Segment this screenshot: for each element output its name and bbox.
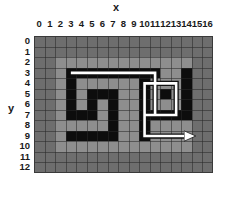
cell-wall-4-9 xyxy=(76,131,87,142)
cell-open-3-10 xyxy=(66,141,77,152)
cell-background-1-6 xyxy=(45,99,56,110)
cell-background-16-2 xyxy=(202,57,213,68)
cell-open-8-8 xyxy=(118,120,129,131)
cell-background-6-11 xyxy=(97,152,108,163)
cell-background-10-1 xyxy=(139,47,150,58)
cell-background-12-11 xyxy=(160,152,171,163)
cell-background-1-8 xyxy=(45,120,56,131)
cell-open-2-2 xyxy=(55,57,66,68)
cell-wall-5-6 xyxy=(87,99,98,110)
cell-open-13-2 xyxy=(171,57,182,68)
cell-open-2-10 xyxy=(55,141,66,152)
cell-background-13-1 xyxy=(171,47,182,58)
cell-background-9-1 xyxy=(129,47,140,58)
cell-open-4-2 xyxy=(76,57,87,68)
cell-open-8-9 xyxy=(118,131,129,142)
cell-background-0-0 xyxy=(34,36,45,47)
cell-background-15-2 xyxy=(192,57,203,68)
cell-wall-10-5 xyxy=(139,89,150,100)
cell-background-4-11 xyxy=(76,152,87,163)
cell-open-9-5 xyxy=(129,89,140,100)
cell-wall-7-7 xyxy=(108,110,119,121)
cell-open-3-2 xyxy=(66,57,77,68)
x-tick-14: 14 xyxy=(181,18,192,30)
cell-open-8-4 xyxy=(118,78,129,89)
cell-open-11-2 xyxy=(150,57,161,68)
y-tick-4: 4 xyxy=(16,78,32,89)
cell-wall-10-9 xyxy=(139,131,150,142)
cell-open-7-2 xyxy=(108,57,119,68)
cell-background-3-1 xyxy=(66,47,77,58)
cell-background-7-12 xyxy=(108,162,119,173)
cell-open-12-8 xyxy=(160,120,171,131)
cell-open-13-5 xyxy=(171,89,182,100)
cell-background-4-0 xyxy=(76,36,87,47)
cell-background-16-4 xyxy=(202,78,213,89)
cell-background-11-11 xyxy=(150,152,161,163)
cell-open-9-8 xyxy=(129,120,140,131)
cell-wall-7-6 xyxy=(108,99,119,110)
cell-background-13-12 xyxy=(171,162,182,173)
cell-open-14-2 xyxy=(181,57,192,68)
cell-wall-3-3 xyxy=(66,68,77,79)
cell-open-9-4 xyxy=(129,78,140,89)
x-tick-0: 0 xyxy=(34,18,45,30)
cell-wall-14-3 xyxy=(181,68,192,79)
cell-open-13-6 xyxy=(171,99,182,110)
cell-open-8-10 xyxy=(118,141,129,152)
cell-open-2-5 xyxy=(55,89,66,100)
cell-open-14-9 xyxy=(181,131,192,142)
cell-background-16-8 xyxy=(202,120,213,131)
cell-background-0-3 xyxy=(34,68,45,79)
cell-wall-6-5 xyxy=(97,89,108,100)
cell-wall-7-3 xyxy=(108,68,119,79)
cell-wall-3-5 xyxy=(66,89,77,100)
cell-background-0-9 xyxy=(34,131,45,142)
cell-background-1-9 xyxy=(45,131,56,142)
cell-open-6-7 xyxy=(97,110,108,121)
cell-wall-3-7 xyxy=(66,110,77,121)
cell-open-5-2 xyxy=(87,57,98,68)
cell-open-14-8 xyxy=(181,120,192,131)
cell-background-1-4 xyxy=(45,78,56,89)
cell-open-2-7 xyxy=(55,110,66,121)
cell-open-11-8 xyxy=(150,120,161,131)
cell-wall-5-5 xyxy=(87,89,98,100)
cell-background-10-11 xyxy=(139,152,150,163)
cell-background-14-11 xyxy=(181,152,192,163)
cell-open-9-10 xyxy=(129,141,140,152)
cell-background-7-1 xyxy=(108,47,119,58)
cell-background-15-5 xyxy=(192,89,203,100)
cell-wall-4-7 xyxy=(76,110,87,121)
cell-background-3-11 xyxy=(66,152,77,163)
cell-open-2-8 xyxy=(55,120,66,131)
cell-background-3-0 xyxy=(66,36,77,47)
cell-background-10-12 xyxy=(139,162,150,173)
cell-background-10-0 xyxy=(139,36,150,47)
cell-wall-3-9 xyxy=(66,131,77,142)
cell-wall-14-4 xyxy=(181,78,192,89)
cell-background-4-1 xyxy=(76,47,87,58)
maze-grid-figure: x y 012345678910111213141516 01234567891… xyxy=(0,0,242,201)
cell-background-5-11 xyxy=(87,152,98,163)
cell-background-0-10 xyxy=(34,141,45,152)
cell-open-6-8 xyxy=(97,120,108,131)
cell-background-4-12 xyxy=(76,162,87,173)
x-tick-11: 11 xyxy=(150,18,161,30)
y-axis-title: y xyxy=(8,103,14,114)
cell-background-11-12 xyxy=(150,162,161,173)
cell-open-12-10 xyxy=(160,141,171,152)
cell-background-15-8 xyxy=(192,120,203,131)
cell-open-12-2 xyxy=(160,57,171,68)
y-tick-0: 0 xyxy=(16,36,32,47)
cell-background-2-1 xyxy=(55,47,66,58)
cell-background-0-4 xyxy=(34,78,45,89)
cell-open-9-7 xyxy=(129,110,140,121)
cell-background-13-0 xyxy=(171,36,182,47)
cell-open-4-4 xyxy=(76,78,87,89)
cell-wall-14-7 xyxy=(181,110,192,121)
cell-open-2-4 xyxy=(55,78,66,89)
cell-open-8-6 xyxy=(118,99,129,110)
x-tick-10: 10 xyxy=(139,18,150,30)
cell-open-11-9 xyxy=(150,131,161,142)
